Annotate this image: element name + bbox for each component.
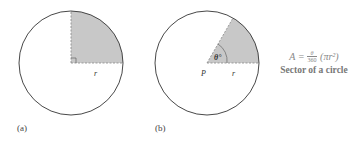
formula-fraction: θ 360 [307, 50, 317, 63]
figure-b-label: (b) [155, 123, 166, 133]
quarter-sector-shade [71, 11, 123, 63]
fraction-denominator: 360 [308, 57, 317, 63]
figure-a-label: (a) [17, 123, 27, 133]
formula-caption: Sector of a circle [268, 65, 360, 75]
figure-b-circle: θ° P r [155, 11, 259, 115]
figure-a-circle: r [19, 11, 123, 115]
svg-text:r: r [94, 69, 98, 78]
sector-area-formula: A = θ 360 (πr²) Sector of a circle [268, 50, 360, 75]
svg-text:θ°: θ° [214, 53, 222, 62]
formula-lhs: A [289, 51, 295, 62]
svg-text:P: P [200, 69, 206, 78]
formula-rest: (πr²) [320, 51, 339, 62]
svg-text:r: r [232, 69, 236, 78]
formula-equals: = [298, 51, 304, 62]
formula-equation: A = θ 360 (πr²) [268, 50, 360, 63]
